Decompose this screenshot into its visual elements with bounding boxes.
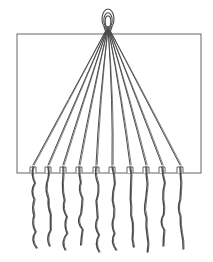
bottom-notches xyxy=(30,167,183,173)
radiating-threads xyxy=(33,30,181,165)
knot-loop-icon xyxy=(102,9,114,33)
string-card-drawing xyxy=(0,0,213,262)
hanging-threads xyxy=(32,167,184,252)
illustration xyxy=(0,0,213,262)
